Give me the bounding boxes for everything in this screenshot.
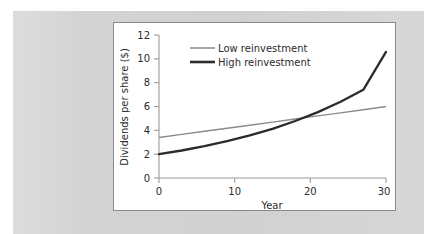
y-tick-label-8: 8	[144, 77, 150, 88]
x-tick-label-0: 0	[156, 186, 162, 197]
figure-page: 0 2 4 6 8 10 12 0 10 20 30	[0, 0, 424, 234]
chart-legend: Low reinvestment High reinvestment	[190, 43, 311, 68]
y-tick-label-6: 6	[144, 101, 150, 112]
line-chart: 0 2 4 6 8 10 12 0 10 20 30	[114, 23, 397, 212]
y-tick-label-2: 2	[144, 149, 150, 160]
y-tick-label-10: 10	[137, 53, 150, 64]
series-line-low-reinvestment	[159, 107, 386, 138]
x-tick-label-10: 10	[228, 186, 241, 197]
legend-label-low-reinvestment: Low reinvestment	[218, 43, 307, 54]
x-tick-label-20: 20	[304, 186, 317, 197]
plot-area: 0 2 4 6 8 10 12 0 10 20 30	[114, 23, 395, 210]
x-tick-label-30: 30	[378, 186, 391, 197]
y-axis-ticks	[154, 35, 159, 178]
legend-label-high-reinvestment: High reinvestment	[218, 57, 311, 68]
y-tick-label-4: 4	[144, 125, 150, 136]
y-axis-title: Dividends per share ($)	[119, 48, 130, 166]
y-tick-label-12: 12	[137, 30, 150, 41]
x-axis-ticks	[159, 178, 386, 183]
chart-panel: 0 2 4 6 8 10 12 0 10 20 30	[113, 22, 396, 211]
x-axis-title: Year	[260, 200, 283, 211]
y-tick-label-0: 0	[144, 173, 150, 184]
